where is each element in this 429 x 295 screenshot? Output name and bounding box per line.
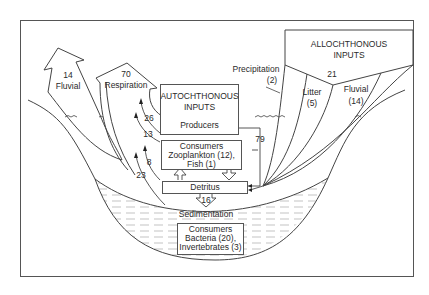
respiration-output-label: Respiration (103, 80, 149, 90)
to-detritus-flow: 79 (253, 134, 267, 144)
respiration-flow-benthic: 23 (134, 170, 148, 180)
fluvial-input-value: (14) (344, 96, 368, 106)
sedimentation-label: Sedimentation (175, 209, 237, 219)
precipitation-label: Precipitation (226, 64, 286, 74)
autochthonous-title-1: AUTOCHTHONOUS (160, 91, 239, 101)
litter-label: Litter (300, 87, 324, 97)
respiration-flow-detritus: 8 (144, 157, 154, 167)
respiration-flow-producers: 26 (142, 113, 156, 123)
fluvial-input-label: Fluvial (336, 84, 376, 94)
respiration-flow-consumers: 13 (141, 129, 155, 139)
precipitation-value: (2) (264, 75, 280, 85)
allochthonous-title-1: ALLOCHTHONOUS (287, 39, 411, 49)
allochthonous-title-2: INPUTS (287, 50, 411, 60)
fluvial-output-value: 14 (58, 70, 78, 80)
fluvial-output-label: Fluvial (50, 81, 86, 91)
water-surface (255, 116, 285, 118)
sedimentation-value: 16 (198, 195, 214, 205)
allochthonous-total: 21 (320, 69, 344, 79)
producers-label: Producers (160, 120, 239, 130)
respiration-output-value: 70 (116, 69, 136, 79)
consumers-pelagic-line3: Fish (1) (161, 159, 242, 169)
fluvial-output-arrow (44, 48, 122, 160)
autochthonous-title-2: INPUTS (160, 102, 239, 112)
litter-value: (5) (304, 98, 320, 108)
consumers-benthic-line3: Invertebrates (3) (177, 242, 244, 252)
detritus-label: Detritus (162, 182, 248, 192)
